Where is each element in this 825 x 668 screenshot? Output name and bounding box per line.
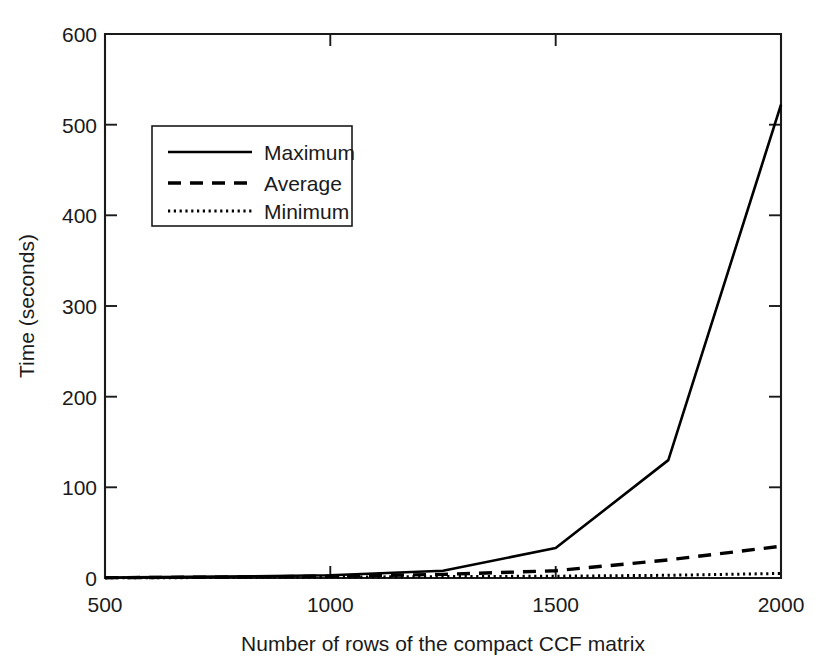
x-tick-labels: 500 1000 1500 2000 — [87, 593, 804, 616]
x-tick-label-1000: 1000 — [307, 593, 354, 616]
series-line-average — [105, 546, 781, 577]
y-axis-ticks — [105, 34, 781, 578]
x-tick-label-2000: 2000 — [758, 593, 805, 616]
x-tick-label-500: 500 — [87, 593, 122, 616]
line-chart: 600 500 400 300 200 100 0 500 1000 1500 … — [0, 0, 825, 668]
legend-label-average: Average — [264, 172, 342, 195]
legend-label-maximum: Maximum — [264, 141, 355, 164]
legend: Maximum Average Minimum — [152, 126, 355, 226]
y-tick-label-500: 500 — [62, 114, 97, 137]
y-tick-label-300: 300 — [62, 295, 97, 318]
y-tick-labels: 600 500 400 300 200 100 0 — [62, 23, 97, 590]
x-axis-title: Number of rows of the compact CCF matrix — [241, 632, 645, 655]
axes-frame — [105, 34, 781, 578]
y-tick-label-600: 600 — [62, 23, 97, 46]
y-tick-label-400: 400 — [62, 204, 97, 227]
x-tick-label-1500: 1500 — [532, 593, 579, 616]
y-tick-label-200: 200 — [62, 386, 97, 409]
legend-label-minimum: Minimum — [264, 200, 349, 223]
y-tick-label-0: 0 — [85, 567, 97, 590]
x-axis-ticks — [105, 34, 781, 578]
figure-container: 600 500 400 300 200 100 0 500 1000 1500 … — [0, 0, 825, 668]
y-axis-title: Time (seconds) — [15, 234, 38, 378]
y-tick-label-100: 100 — [62, 476, 97, 499]
